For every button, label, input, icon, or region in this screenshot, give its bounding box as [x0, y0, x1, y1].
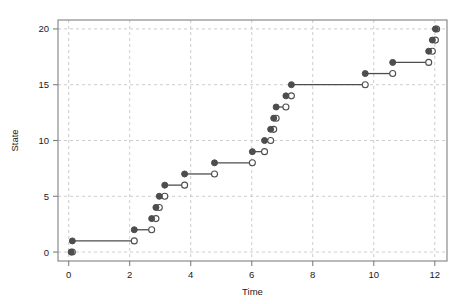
axis-labels: 02468101205101520TimeState	[9, 23, 440, 297]
data-point-filled	[426, 48, 432, 54]
data-point-filled	[271, 115, 277, 121]
data-point-filled	[162, 182, 168, 188]
data-point-filled	[212, 160, 218, 166]
x-axis-title: Time	[242, 286, 263, 297]
data-point-filled	[273, 104, 279, 110]
data-point-open	[268, 138, 274, 144]
x-tick-label: 10	[368, 269, 379, 280]
data-point-open	[362, 82, 368, 88]
data-point-open	[182, 182, 188, 188]
data-point-filled	[390, 59, 396, 65]
x-tick-label: 8	[310, 269, 315, 280]
data-point-filled	[182, 171, 188, 177]
y-axis-title: State	[9, 129, 20, 151]
data-point-filled	[283, 93, 289, 99]
data-point-open	[249, 160, 255, 166]
step-chart-figure: 02468101205101520TimeState	[0, 0, 466, 304]
y-tick-label: 10	[38, 135, 49, 146]
data-point-open	[390, 71, 396, 77]
data-point-filled	[249, 149, 255, 155]
data-point-filled	[156, 193, 162, 199]
data-point-open	[212, 171, 218, 177]
data-point-filled	[153, 204, 159, 210]
x-tick-label: 0	[66, 269, 71, 280]
y-tick-label: 5	[44, 191, 49, 202]
data-point-open	[283, 104, 289, 110]
y-tick-label: 15	[38, 79, 49, 90]
data-point-filled	[362, 71, 368, 77]
data-point-filled	[432, 26, 438, 32]
data-point-filled	[268, 126, 274, 132]
data-point-filled	[429, 37, 435, 43]
tick-marks	[53, 29, 435, 266]
data-point-open	[426, 59, 432, 65]
data-point-filled	[288, 82, 294, 88]
data-point-filled	[68, 249, 74, 255]
y-tick-label: 20	[38, 23, 49, 34]
step-plot-svg: 02468101205101520TimeState	[0, 0, 466, 304]
x-tick-label: 2	[127, 269, 132, 280]
x-tick-label: 4	[188, 269, 193, 280]
data-point-filled	[262, 138, 268, 144]
data-point-open	[262, 149, 268, 155]
data-point-open	[131, 238, 137, 244]
data-point-open	[149, 227, 155, 233]
x-tick-label: 12	[430, 269, 441, 280]
data-point-filled	[131, 227, 137, 233]
x-tick-label: 6	[249, 269, 254, 280]
y-tick-label: 0	[44, 247, 49, 258]
grid-layer	[58, 20, 447, 261]
data-point-filled	[149, 216, 155, 222]
data-point-filled	[69, 238, 75, 244]
